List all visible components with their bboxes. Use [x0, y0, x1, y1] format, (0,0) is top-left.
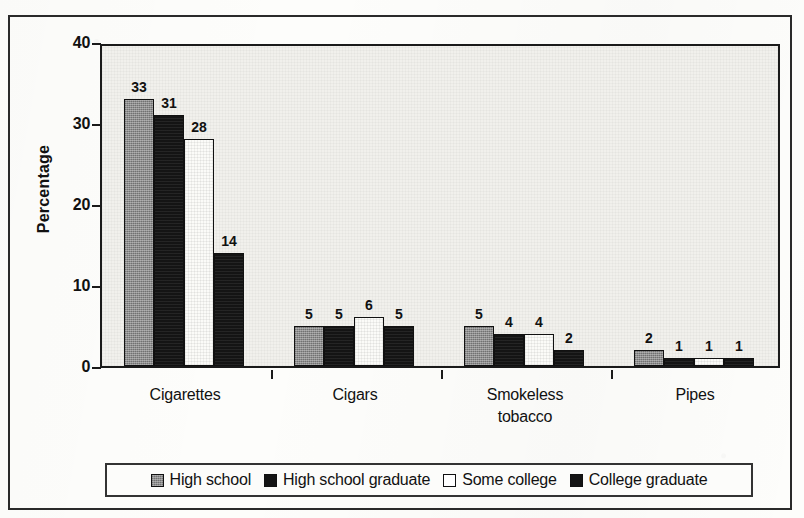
- bar: [124, 99, 154, 366]
- x-axis-category-label: Cigars: [270, 384, 440, 406]
- x-axis-separator-tick: [441, 370, 443, 379]
- bar: [464, 326, 494, 367]
- chart-page: Percentage 010203040 3331281455655442211…: [0, 0, 804, 518]
- x-axis-category-line: Pipes: [610, 384, 780, 406]
- x-axis-separator-tick: [271, 370, 273, 379]
- legend-item[interactable]: High school: [151, 471, 251, 489]
- bar: [494, 334, 524, 366]
- y-axis-tick-label: 0: [46, 358, 90, 376]
- bar: [184, 139, 214, 366]
- x-axis-category-line: Cigarettes: [100, 384, 270, 406]
- bar-value-label: 31: [150, 95, 188, 111]
- y-axis-tick-label: 40: [46, 34, 90, 52]
- legend-item[interactable]: High school graduate: [264, 471, 430, 489]
- bar-value-label: 14: [210, 233, 248, 249]
- legend-swatch-icon: [570, 474, 583, 487]
- y-axis-title: Percentage: [35, 109, 53, 269]
- legend-item[interactable]: Some college: [443, 471, 557, 489]
- x-axis-category-label: Smokelesstobacco: [440, 384, 610, 427]
- bar-value-label: 2: [550, 330, 588, 346]
- legend-label: High school graduate: [283, 471, 430, 489]
- legend-label: Some college: [462, 471, 557, 489]
- bar: [694, 358, 724, 366]
- plot-area: 33312814556554422111: [100, 44, 780, 368]
- bar-value-label: 33: [120, 79, 158, 95]
- legend-swatch-icon: [443, 474, 456, 487]
- bar: [724, 358, 754, 366]
- legend-item[interactable]: College graduate: [570, 471, 708, 489]
- legend-swatch-icon: [151, 474, 164, 487]
- x-axis-category-line: tobacco: [440, 406, 610, 428]
- legend-swatch-icon: [264, 474, 277, 487]
- x-axis-category-line: Smokeless: [440, 384, 610, 406]
- chart-legend: High schoolHigh school graduateSome coll…: [105, 463, 753, 497]
- y-axis-tick-label: 20: [46, 196, 90, 214]
- x-axis-separator-tick: [611, 370, 613, 379]
- bar: [154, 115, 184, 366]
- bar-value-label: 28: [180, 119, 218, 135]
- bar-value-label: 1: [720, 338, 758, 354]
- bar: [354, 317, 384, 366]
- legend-label: College graduate: [589, 471, 708, 489]
- x-axis-category-label: Pipes: [610, 384, 780, 406]
- bar-value-label: 4: [520, 314, 558, 330]
- bar: [384, 326, 414, 367]
- y-axis-tick-label: 10: [46, 277, 90, 295]
- y-axis-tick-label: 30: [46, 115, 90, 133]
- x-axis-category-label: Cigarettes: [100, 384, 270, 406]
- legend-label: High school: [170, 471, 251, 489]
- x-axis-category-line: Cigars: [270, 384, 440, 406]
- bar-value-label: 5: [380, 306, 418, 322]
- bar: [294, 326, 324, 367]
- bar: [664, 358, 694, 366]
- bar: [324, 326, 354, 367]
- bar: [554, 350, 584, 366]
- bar: [214, 253, 244, 366]
